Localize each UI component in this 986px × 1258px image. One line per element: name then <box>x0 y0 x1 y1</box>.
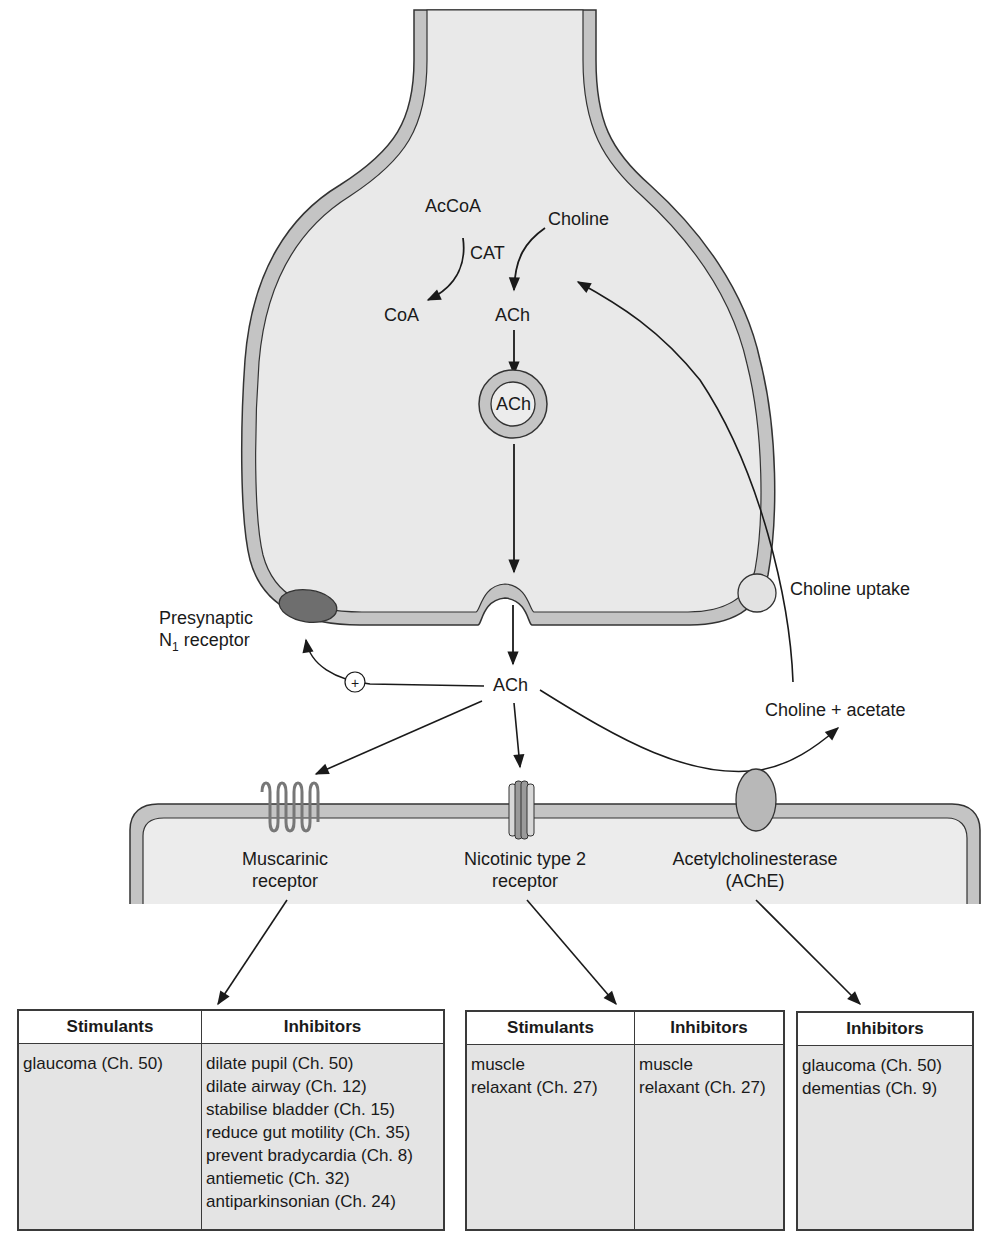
label-ach-released: ACh <box>493 674 528 696</box>
list-item: glaucoma (Ch. 50) <box>802 1054 968 1077</box>
nicotinic-inhibitors-cell: muscle relaxant (Ch. 27) <box>635 1045 785 1231</box>
list-item: prevent bradycardia (Ch. 8) <box>206 1144 439 1167</box>
label-choline: Choline <box>548 208 609 230</box>
header-inhibitors: Inhibitors <box>635 1011 785 1045</box>
label-ache: Acetylcholinesterase (AChE) <box>655 848 855 892</box>
label-presynaptic: Presynaptic <box>159 607 253 629</box>
label-nicotinic-receptor: Nicotinic type 2 receptor <box>440 848 610 892</box>
ach-to-nicotinic-arrow <box>514 703 520 767</box>
label-accoa: AcCoA <box>425 195 481 217</box>
label-vesicle-ach: ACh <box>496 393 531 415</box>
muscarinic-inhibitors-cell: dilate pupil (Ch. 50) dilate airway (Ch.… <box>202 1044 445 1231</box>
list-item: dilate airway (Ch. 12) <box>206 1075 439 1098</box>
label-coa: CoA <box>384 304 419 326</box>
header-inhibitors: Inhibitors <box>797 1012 973 1046</box>
muscarinic-drug-table: Stimulants Inhibitors glaucoma (Ch. 50) … <box>17 1009 445 1231</box>
label-ach-synthesized: ACh <box>495 304 530 326</box>
label-presynaptic-n1-receptor: Presynaptic N1 receptor <box>159 607 253 658</box>
nicotinic-to-table-arrow <box>527 900 616 1004</box>
list-item: reduce gut motility (Ch. 35) <box>206 1121 439 1144</box>
ache-enzyme-shape <box>736 769 776 831</box>
list-item: dilate pupil (Ch. 50) <box>206 1052 439 1075</box>
list-item: stabilise bladder (Ch. 15) <box>206 1098 439 1121</box>
choline-uptake-transporter <box>738 574 776 612</box>
plus-icon: + <box>349 672 361 694</box>
ach-to-muscarinic-arrow <box>316 701 482 774</box>
list-item: glaucoma (Ch. 50) <box>23 1052 197 1075</box>
label-muscarinic-receptor: Muscarinic receptor <box>220 848 350 892</box>
list-item: muscle <box>639 1053 779 1076</box>
nicotinic-receptor-shape <box>509 781 534 839</box>
list-item: dementias (Ch. 9) <box>802 1077 968 1100</box>
header-inhibitors: Inhibitors <box>202 1010 445 1044</box>
header-stimulants: Stimulants <box>466 1011 635 1045</box>
label-choline-acetate: Choline + acetate <box>765 699 906 721</box>
muscarinic-stimulants-cell: glaucoma (Ch. 50) <box>18 1044 202 1231</box>
nicotinic-drug-table: Stimulants Inhibitors muscle relaxant (C… <box>465 1010 785 1231</box>
list-item: muscle <box>471 1053 630 1076</box>
list-item: relaxant (Ch. 27) <box>471 1076 630 1099</box>
list-item: antiparkinsonian (Ch. 24) <box>206 1190 439 1213</box>
label-cat-enzyme: CAT <box>470 242 505 264</box>
list-item: antiemetic (Ch. 32) <box>206 1167 439 1190</box>
ache-inhibitors-cell: glaucoma (Ch. 50) dementias (Ch. 9) <box>797 1046 973 1231</box>
header-stimulants: Stimulants <box>18 1010 202 1044</box>
nicotinic-stimulants-cell: muscle relaxant (Ch. 27) <box>466 1045 635 1231</box>
list-item: relaxant (Ch. 27) <box>639 1076 779 1099</box>
n1-feedback-arrow <box>306 640 484 686</box>
muscarinic-to-table-arrow <box>218 900 287 1004</box>
label-choline-uptake: Choline uptake <box>790 578 910 600</box>
ache-drug-table: Inhibitors glaucoma (Ch. 50) dementias (… <box>796 1011 974 1231</box>
ache-to-table-arrow <box>756 900 860 1004</box>
